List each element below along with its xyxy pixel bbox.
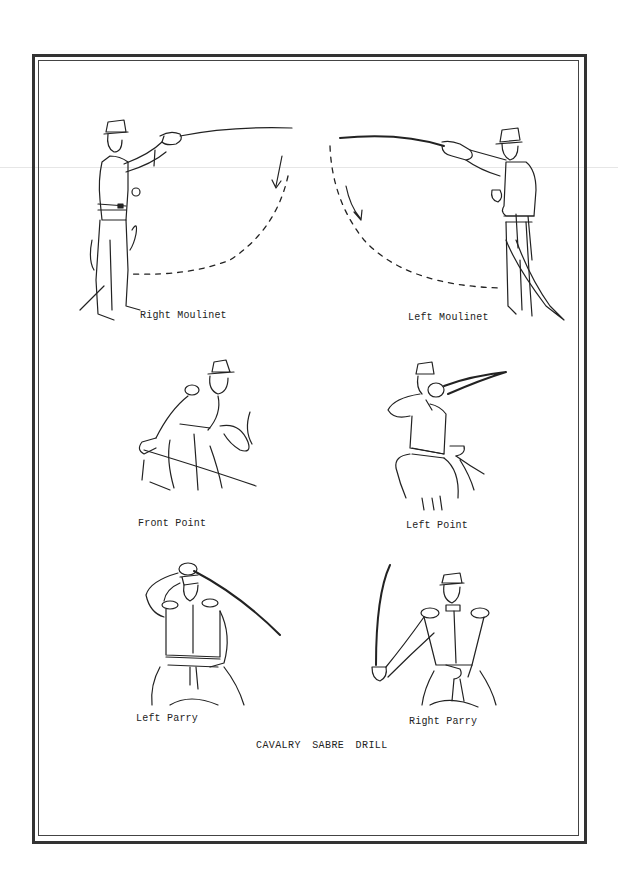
caption-left-moulinet: Left Moulinet bbox=[408, 312, 489, 323]
caption-front-point: Front Point bbox=[138, 518, 206, 529]
left-parry-illustration bbox=[120, 555, 300, 715]
right-parry-illustration bbox=[360, 555, 530, 720]
caption-right-moulinet: Right Moulinet bbox=[140, 310, 227, 321]
right-moulinet-illustration bbox=[80, 110, 300, 330]
caption-left-point: Left Point bbox=[406, 520, 468, 531]
caption-right-parry: Right Parry bbox=[409, 716, 477, 727]
front-point-illustration bbox=[110, 350, 290, 520]
left-moulinet-illustration bbox=[320, 110, 580, 330]
left-point-illustration bbox=[360, 350, 530, 520]
document-title: CAVALRY SABRE DRILL bbox=[256, 740, 388, 751]
caption-left-parry: Left Parry bbox=[136, 713, 198, 724]
